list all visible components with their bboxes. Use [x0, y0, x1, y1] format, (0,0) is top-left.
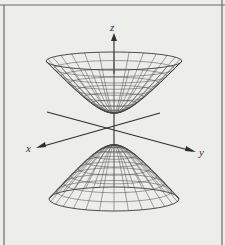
z-axis-arrowhead	[111, 33, 117, 41]
figure-frame	[0, 0, 225, 245]
y-axis-label: y	[198, 146, 204, 158]
mesh-spoke	[114, 59, 180, 113]
mesh-spoke	[114, 145, 177, 202]
mesh-spoke	[51, 145, 114, 202]
hyperboloid-figure: z x y	[0, 0, 225, 245]
lower-sheet	[49, 145, 179, 211]
x-axis-label: x	[25, 142, 31, 154]
y-axis-arrowhead	[185, 146, 196, 152]
x-axis-arrowhead	[36, 142, 46, 148]
mesh-spoke	[48, 59, 114, 113]
upper-sheet	[46, 52, 182, 113]
z-axis-label: z	[109, 21, 115, 33]
